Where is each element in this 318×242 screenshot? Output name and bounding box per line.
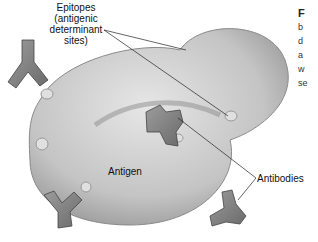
epitopes-label-line: sites): [48, 35, 104, 46]
caption-fragment: F b d a w se: [298, 6, 308, 90]
epitope-bump: [81, 182, 91, 192]
epitope-bump: [41, 89, 53, 99]
antibody-top-left: [8, 40, 48, 88]
caption-line: a: [298, 48, 308, 62]
caption-line: b: [298, 20, 308, 34]
antigen-label: Antigen: [108, 166, 142, 177]
epitopes-label-line: (antigenic: [48, 13, 104, 24]
epitopes-label-line: Epitopes: [48, 2, 104, 13]
caption-line: F: [298, 6, 308, 20]
epitope-bump: [36, 138, 48, 150]
caption-line: d: [298, 34, 308, 48]
epitopes-label-line: determinant: [48, 24, 104, 35]
antibody-bottom-right: [210, 190, 246, 226]
epitopes-label: Epitopes (antigenic determinant sites): [48, 2, 104, 46]
caption-line: se: [298, 76, 308, 90]
antibodies-label: Antibodies: [257, 173, 304, 184]
caption-line: w: [298, 62, 308, 76]
epitope-bump: [225, 111, 237, 121]
